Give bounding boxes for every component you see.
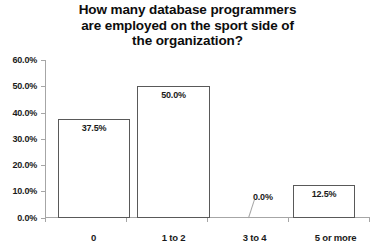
y-tick-20 (41, 165, 45, 166)
y-tick-label-0: 0.0% (17, 213, 37, 223)
plot-area: 0.0% 10.0% 20.0% 30.0% 40.0% 50.0% 60.0%… (45, 60, 370, 218)
bar-label-2: 0.0% (253, 192, 273, 202)
y-tick-label-20: 20.0% (12, 160, 37, 170)
x-tick-0 (45, 217, 46, 222)
chart-title-line-3: the organization? (0, 33, 375, 49)
chart-title-line-1: How many database programmers (0, 2, 375, 18)
category-label-3: 5 or more (295, 232, 375, 243)
y-tick-60 (41, 60, 45, 61)
bar-1[interactable] (137, 86, 210, 217)
chart-title: How many database programmers are employ… (0, 2, 375, 49)
x-tick-1 (126, 217, 127, 222)
y-tick-label-10: 10.0% (12, 186, 37, 196)
x-tick-3 (288, 217, 289, 222)
y-tick-30 (41, 139, 45, 140)
bar-chart: How many database programmers are employ… (0, 0, 375, 251)
category-label-0: 0 (53, 232, 134, 243)
zero-leader-line (248, 200, 255, 218)
category-label-2: 3 to 4 (214, 232, 295, 243)
y-tick-label-60: 60.0% (12, 55, 37, 65)
y-tick-50 (41, 86, 45, 87)
bar-label-1: 50.0% (137, 90, 210, 100)
y-tick-label-50: 50.0% (12, 81, 37, 91)
value-axis-line (45, 60, 46, 218)
category-label-1: 1 to 2 (133, 232, 214, 243)
x-tick-4 (369, 217, 370, 222)
bar-label-3: 12.5% (293, 189, 355, 199)
bar-0[interactable] (58, 119, 130, 217)
x-tick-2 (207, 217, 208, 222)
y-tick-40 (41, 113, 45, 114)
bar-label-0: 37.5% (58, 123, 130, 133)
chart-title-line-2: are employed on the sport side of (0, 18, 375, 34)
y-tick-label-40: 40.0% (12, 108, 37, 118)
y-tick-10 (41, 191, 45, 192)
y-tick-label-30: 30.0% (12, 134, 37, 144)
